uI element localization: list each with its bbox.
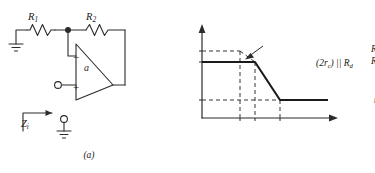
y-tick-label-Rd-lower: Rd	[371, 57, 375, 67]
resistor-r2	[86, 25, 125, 36]
zi-arrowhead	[46, 110, 53, 116]
resistor-r1	[27, 25, 55, 36]
side-label-parallel-impedance: (2rc) || Rd	[316, 59, 353, 69]
label-r1: R1	[28, 12, 38, 23]
input-terminal-circle-top	[55, 82, 62, 89]
panel-a-circuit-diagram: R1 R2 a − + Zi (a)	[0, 0, 188, 173]
label-input-impedance: Zi	[21, 119, 29, 130]
x-axis-arrowhead	[329, 115, 338, 122]
figure-container: R1 R2 a − + Zi (a)	[0, 0, 375, 173]
opamp-triangle	[76, 44, 113, 100]
y-axis-arrowhead	[199, 24, 206, 33]
label-opamp-gain: a	[84, 63, 89, 73]
label-inverting-input: −	[73, 52, 79, 63]
y-tick-label-Rd-upper: Rd	[371, 45, 375, 55]
panel-b-bode-plot: |Zi| (dec) f (dec) Rd Rd rd (2rc) || Rd …	[185, 0, 375, 173]
curve-Zi-response	[202, 62, 328, 100]
label-noninverting-input: +	[73, 82, 79, 93]
bode-plot-svg	[185, 0, 375, 173]
label-r2: R2	[86, 12, 96, 23]
caption-panel-a: (a)	[54, 150, 124, 160]
ground-wire-left	[16, 30, 27, 44]
input-terminal-circle-bottom	[61, 116, 68, 123]
circuit-schematic-svg	[0, 0, 188, 173]
